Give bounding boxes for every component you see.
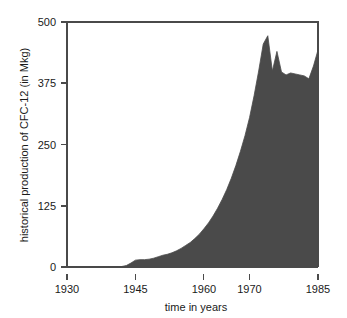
x-tick-label-0: 1930: [55, 283, 79, 295]
y-axis-title: historical production of CFC-12 (in Mkg): [18, 48, 30, 242]
y-tick-label-1: 125: [38, 200, 56, 212]
y-tick-label-0: 0: [50, 261, 56, 273]
x-tick-label-1: 1945: [123, 283, 147, 295]
chart-figure: 0 125 250 375 500 1930 1945 1960 1970 19…: [0, 0, 347, 318]
y-tick-label-2: 250: [38, 139, 56, 151]
area-chart: 0 125 250 375 500 1930 1945 1960 1970 19…: [0, 0, 347, 318]
x-tick-label-4: 1985: [306, 283, 330, 295]
x-axis-title: time in years: [165, 301, 228, 313]
y-tick-label-4: 500: [38, 16, 56, 28]
y-tick-label-3: 375: [38, 77, 56, 89]
x-tick-label-3: 1970: [237, 283, 261, 295]
x-tick-label-2: 1960: [192, 283, 216, 295]
